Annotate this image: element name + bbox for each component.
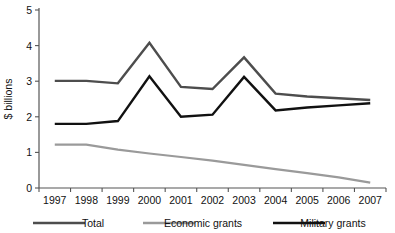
y-tick-label: 3: [26, 75, 32, 87]
legend-label-military-grants: Military grants: [300, 217, 365, 229]
x-axis: 1997199819992000200120022003200420052006…: [39, 188, 386, 206]
chart-canvas: 012345 199719981999200020012002200320042…: [0, 0, 395, 233]
y-tick-label: 2: [26, 111, 32, 123]
y-tick-label: 1: [26, 146, 32, 158]
x-tick-label: 2006: [327, 194, 351, 206]
series-line-military-grants: [55, 76, 370, 124]
x-tick-label: 2000: [138, 194, 162, 206]
series-line-economic-grants: [55, 145, 370, 183]
y-axis-title: $ billions: [2, 79, 14, 120]
x-tick-label: 2004: [264, 194, 288, 206]
y-axis: 012345: [26, 4, 39, 194]
x-tick-label: 2002: [201, 194, 225, 206]
x-tick-label: 2001: [169, 194, 193, 206]
x-tick-label: 1999: [106, 194, 130, 206]
x-tick-label: 1997: [43, 194, 67, 206]
x-tick-label: 2005: [295, 194, 319, 206]
y-tick-label: 4: [26, 40, 32, 52]
series-lines: [55, 43, 370, 183]
chart-legend: TotalEconomic grantsMilitary grants: [33, 217, 366, 229]
x-tick-label: 2007: [359, 194, 383, 206]
x-tick-label: 1998: [75, 194, 99, 206]
x-tick-label: 2003: [232, 194, 256, 206]
y-tick-label: 0: [26, 182, 32, 194]
line-chart: 012345 199719981999200020012002200320042…: [0, 0, 395, 233]
legend-label-total: Total: [82, 217, 104, 229]
series-line-total: [55, 43, 370, 100]
y-tick-label: 5: [26, 4, 32, 16]
legend-label-economic-grants: Economic grants: [164, 217, 242, 229]
